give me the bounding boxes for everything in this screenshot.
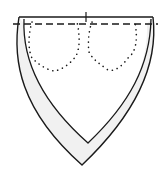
inner-outline: [24, 19, 151, 143]
pattern-diagram: [0, 0, 167, 177]
left-pocket: [29, 22, 79, 71]
right-pocket: [88, 22, 136, 70]
shaded-band: [17, 17, 154, 165]
